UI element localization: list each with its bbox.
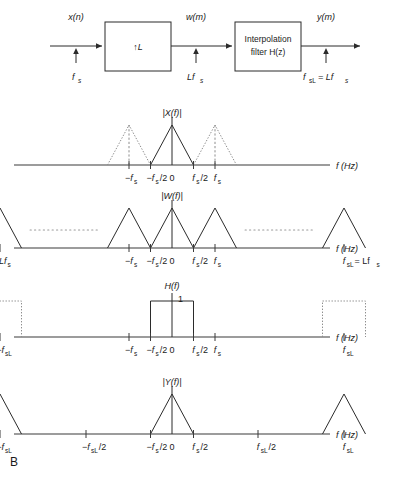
axis-tick-label: 0: [169, 173, 174, 183]
frequency-axis-label: f (Hz): [336, 430, 358, 440]
spectrum-triangle: [108, 208, 151, 248]
svg-text:s: s: [377, 261, 381, 268]
axis-tick-label: 0: [169, 345, 174, 355]
svg-text:0: 0: [169, 345, 174, 355]
upsampler-label: ↑L: [133, 42, 143, 52]
output-rate-arrowhead: [323, 48, 329, 54]
axis-tick-label: fs: [214, 173, 222, 185]
axis-tick-label: fs/2: [192, 173, 208, 185]
mid-signal-label: w(m): [186, 12, 206, 22]
filter-label-line1: Interpolation: [245, 34, 292, 44]
plot-w: f (Hz)|W(f)|−Lfs−fs−fs/20fs/2fsfsL = Lfs: [0, 191, 381, 268]
svg-text:/2: /2: [160, 173, 168, 183]
output-rate-label: f: [303, 72, 307, 82]
axis-tick-label: fs/2: [192, 345, 208, 357]
axis-tick-label: fsL/2: [257, 442, 276, 454]
axis-tick-label: −fs/2: [147, 442, 168, 454]
svg-text:/2: /2: [160, 345, 168, 355]
svg-text:/2: /2: [200, 256, 208, 266]
spectrum-triangle: [0, 394, 22, 434]
axis-tick-label: −fsL: [0, 442, 12, 454]
axis-tick-label: −fs: [125, 173, 138, 185]
plot-x-title: |X(f)|: [162, 108, 181, 118]
svg-text:/2: /2: [99, 442, 107, 452]
svg-text:sL: sL: [347, 447, 354, 454]
axis-tick-label: −fs/2: [147, 345, 168, 357]
input-arrowhead: [96, 43, 102, 49]
input-rate-sub: s: [78, 77, 82, 84]
axis-tick-label: 0: [169, 442, 174, 452]
svg-text:/2: /2: [200, 345, 208, 355]
svg-text:sL: sL: [347, 350, 354, 357]
mid-rate-arrowhead: [193, 48, 199, 54]
svg-text:/2: /2: [160, 256, 168, 266]
output-rate-sub: sL: [309, 77, 316, 84]
svg-text:sL: sL: [261, 447, 268, 454]
svg-text:/2: /2: [269, 442, 277, 452]
plot-y: f (Hz)|Y(f)|−fsL−fsL/2−fs/20fs/2fsL/2fsL: [0, 377, 366, 454]
svg-text:sL: sL: [347, 261, 354, 268]
signal-flow-figure: ↑L x(n) f s w(m) Lf s Interpolation filt…: [0, 0, 393, 481]
figure-canvas: ↑L x(n) f s w(m) Lf s Interpolation filt…: [0, 0, 393, 481]
filter-passband: [0, 301, 22, 337]
axis-tick-label: fsL: [343, 345, 354, 357]
svg-text:−f: −f: [147, 345, 156, 355]
svg-text:−f: −f: [147, 442, 156, 452]
axis-tick-label: fs/2: [192, 256, 208, 268]
input-rate-label: f: [72, 72, 76, 82]
svg-text:sL: sL: [91, 447, 98, 454]
svg-text:0: 0: [169, 256, 174, 266]
block-diagram: ↑L x(n) f s w(m) Lf s Interpolation filt…: [50, 12, 360, 84]
svg-text:0: 0: [169, 442, 174, 452]
axis-tick-label: −fs: [125, 256, 138, 268]
plot-h: f (Hz)H(f)1−fsL−fs−fs/20fs/2fsfsL: [0, 281, 366, 357]
spectrum-triangle: [323, 394, 366, 434]
axis-tick-label: fs: [214, 345, 222, 357]
output-signal-label: y(m): [316, 12, 335, 22]
output-arrowhead: [354, 43, 360, 49]
axis-tick-label: 0: [169, 256, 174, 266]
spectrum-triangle: [194, 208, 237, 248]
svg-text:−f: −f: [147, 173, 156, 183]
axis-tick-label: −fsL: [0, 345, 12, 357]
input-signal-label: x(n): [67, 12, 84, 22]
svg-text:/2: /2: [200, 442, 208, 452]
input-rate-arrowhead: [73, 48, 79, 54]
output-rate-rest: = Lf: [318, 72, 335, 82]
svg-text:s: s: [134, 178, 138, 185]
svg-text:−f: −f: [147, 256, 156, 266]
svg-text:sL: sL: [5, 447, 12, 454]
plot-w-title: |W(f)|: [161, 191, 183, 201]
svg-text:= Lf: = Lf: [355, 256, 371, 266]
axis-tick-label: fsL: [343, 442, 354, 454]
svg-text:s: s: [218, 350, 222, 357]
svg-text:/2: /2: [200, 173, 208, 183]
axis-tick-label: fs: [214, 256, 222, 268]
plot-y-title: |Y(f)|: [162, 377, 181, 387]
panel-label: B: [10, 455, 18, 469]
spectrum-plots: f (Hz)|X(f)|−fs−fs/20fs/2fsf (Hz)|W(f)|−…: [0, 108, 381, 454]
svg-text:s: s: [134, 350, 138, 357]
axis-tick-label: fs/2: [192, 442, 208, 454]
svg-text:/2: /2: [160, 442, 168, 452]
svg-text:s: s: [218, 261, 222, 268]
axis-tick-label: −fs/2: [147, 173, 168, 185]
svg-text:sL: sL: [5, 350, 12, 357]
svg-text:s: s: [218, 178, 222, 185]
plot-x: f (Hz)|X(f)|−fs−fs/20fs/2fs: [14, 108, 358, 185]
svg-text:−f: −f: [82, 442, 91, 452]
frequency-axis-label: f (Hz): [336, 244, 358, 254]
svg-text:−f: −f: [125, 345, 134, 355]
axis-tick-label: −fsL/2: [82, 442, 106, 454]
axis-tick-label: −fs: [125, 345, 138, 357]
svg-text:s: s: [134, 261, 138, 268]
axis-tick-label: −Lfs: [0, 256, 11, 268]
svg-text:−f: −f: [125, 173, 134, 183]
axis-tick-label: −fs/2: [147, 256, 168, 268]
axis-tick-label: fsL = Lfs: [343, 256, 381, 268]
plot-h-title: H(f): [165, 281, 180, 291]
frequency-axis-label: f (Hz): [336, 161, 358, 171]
mid-rate-label: Lf: [187, 72, 196, 82]
mid-rate-sub: s: [200, 77, 204, 84]
svg-text:0: 0: [169, 173, 174, 183]
